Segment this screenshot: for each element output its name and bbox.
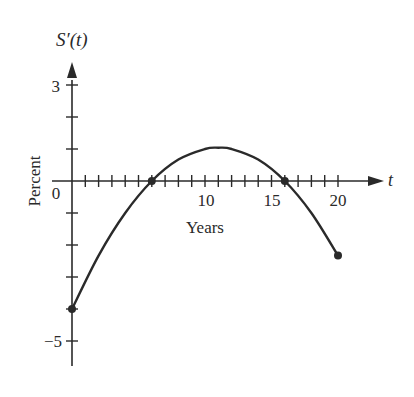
chart-canvas: S′(t) t 0 10 15 20 3 −5 Years Percent [0,0,414,397]
y-tick-label-neg5: −5 [44,332,62,351]
x-axis-name: t [388,170,394,190]
x-tick-label-10: 10 [198,191,215,210]
y-axis-arrow-icon [67,62,77,78]
data-point [334,252,342,260]
origin-label: 0 [52,184,61,203]
y-axis-name: S′(t) [56,29,88,51]
data-point [148,177,156,185]
y-axis-label: Percent [25,155,44,206]
x-tick-label-20: 20 [330,191,347,210]
x-tick-label-15: 15 [264,191,281,210]
x-axis-label: Years [186,218,224,237]
x-axis-arrow-icon [368,176,384,186]
y-tick-label-3: 3 [52,77,61,96]
data-point [68,305,76,313]
data-point [281,177,289,185]
